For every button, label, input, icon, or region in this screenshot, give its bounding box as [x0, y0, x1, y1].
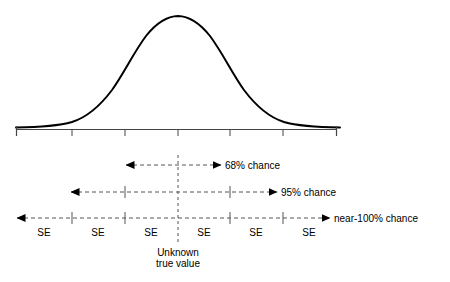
se-label-3: SE [144, 227, 157, 238]
confidence-interval-scale-panel [0, 0, 450, 282]
se-label-6: SE [302, 227, 315, 238]
unknown-true-value-annotation: Unknown true value [156, 247, 200, 269]
se-label-2: SE [91, 227, 104, 238]
interval-row-95 [71, 186, 277, 198]
standard-error-diagram: 68% chance 95% chance near-100% chance S… [0, 0, 450, 282]
interval-label-68: 68% chance [225, 160, 280, 171]
unknown-true-value-line2: true value [156, 258, 200, 269]
se-label-4: SE [197, 227, 210, 238]
interval-label-near-100: near-100% chance [334, 213, 418, 224]
interval-label-95: 95% chance [281, 187, 336, 198]
se-label-5: SE [249, 227, 262, 238]
interval-row-near-100 [17, 212, 330, 224]
se-label-1: SE [37, 227, 50, 238]
unknown-true-value-line1: Unknown [157, 247, 199, 258]
